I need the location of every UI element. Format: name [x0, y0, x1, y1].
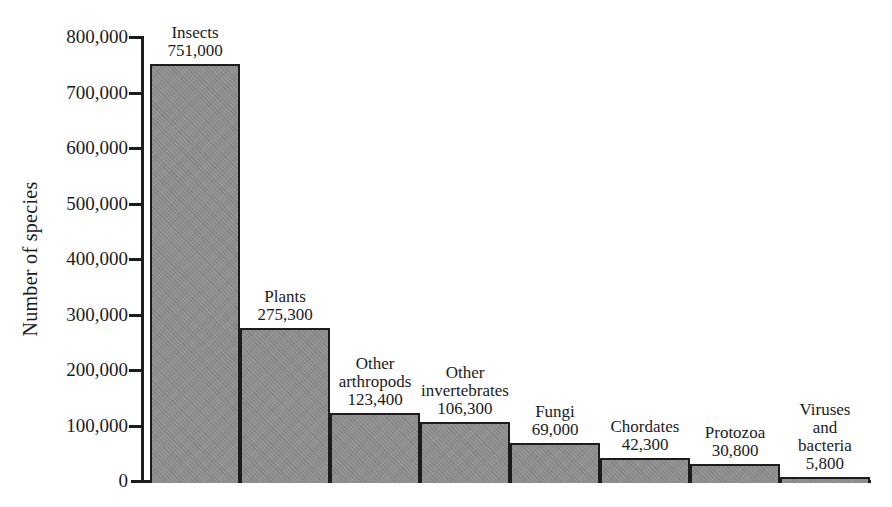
- y-axis-tick-label: 700,000: [18, 82, 128, 104]
- y-axis-tick-label: 800,000: [18, 26, 128, 48]
- bar-insects: [150, 64, 240, 483]
- bar-category-line: Fungi: [532, 403, 579, 421]
- y-axis-tick-label: 100,000: [18, 415, 128, 437]
- bar-value: 69,000: [532, 421, 579, 439]
- y-axis-tick-label: 200,000: [18, 359, 128, 381]
- bar-value: 5,800: [798, 455, 852, 473]
- bar-category-line: Plants: [257, 288, 312, 306]
- y-axis-tick: [129, 369, 142, 372]
- y-axis-tick: [129, 258, 142, 261]
- bar-category-line: Protozoa: [705, 424, 765, 442]
- bar-category-line: Insects: [167, 24, 222, 42]
- bar-category-line: bacteria: [798, 437, 852, 455]
- y-axis-tick-label: 300,000: [18, 304, 128, 326]
- y-axis-tick-label: 400,000: [18, 248, 128, 270]
- bar-value: 42,300: [611, 436, 680, 454]
- bar-label-other-arthropods: Otherarthropods123,400: [339, 355, 412, 409]
- bar-label-fungi: Fungi69,000: [532, 403, 579, 439]
- bar-other-arthropods: [330, 413, 420, 483]
- bar-plants: [240, 328, 330, 483]
- bar-category-line: Chordates: [611, 418, 680, 436]
- bar-other-invertebrates: [420, 422, 510, 483]
- y-axis-tick: [129, 203, 142, 206]
- bar-category-line: invertebrates: [421, 382, 509, 400]
- y-axis-tick-label: 0: [18, 470, 128, 492]
- bar-value: 123,400: [339, 391, 412, 409]
- y-axis-tick-label: 500,000: [18, 193, 128, 215]
- bar-category-line: Other: [339, 355, 412, 373]
- bar-viruses-and-bacteria: [780, 477, 870, 483]
- y-axis-tick: [129, 314, 142, 317]
- y-axis-tick: [129, 36, 142, 39]
- bar-category-line: Viruses: [798, 401, 852, 419]
- bar-fungi: [510, 443, 600, 483]
- bar-chordates: [600, 458, 690, 483]
- bar-category-line: Other: [421, 364, 509, 382]
- bar-protozoa: [690, 464, 780, 483]
- bar-value: 751,000: [167, 42, 222, 60]
- bar-value: 30,800: [705, 442, 765, 460]
- bar-value: 275,300: [257, 306, 312, 324]
- bar-label-protozoa: Protozoa30,800: [705, 424, 765, 460]
- bar-category-line: and: [798, 419, 852, 437]
- bar-label-chordates: Chordates42,300: [611, 418, 680, 454]
- bar-label-insects: Insects751,000: [167, 24, 222, 60]
- bar-category-line: arthropods: [339, 373, 412, 391]
- bar-label-plants: Plants275,300: [257, 288, 312, 324]
- species-bar-chart: Number of species 800,000700,000600,0005…: [0, 0, 892, 507]
- bar-label-viruses-and-bacteria: Virusesandbacteria5,800: [798, 401, 852, 473]
- bar-value: 106,300: [421, 400, 509, 418]
- y-axis-tick-label: 600,000: [18, 137, 128, 159]
- y-axis-tick: [129, 425, 142, 428]
- y-axis-tick: [129, 147, 142, 150]
- y-axis-tick: [129, 92, 142, 95]
- bar-label-other-invertebrates: Otherinvertebrates106,300: [421, 364, 509, 418]
